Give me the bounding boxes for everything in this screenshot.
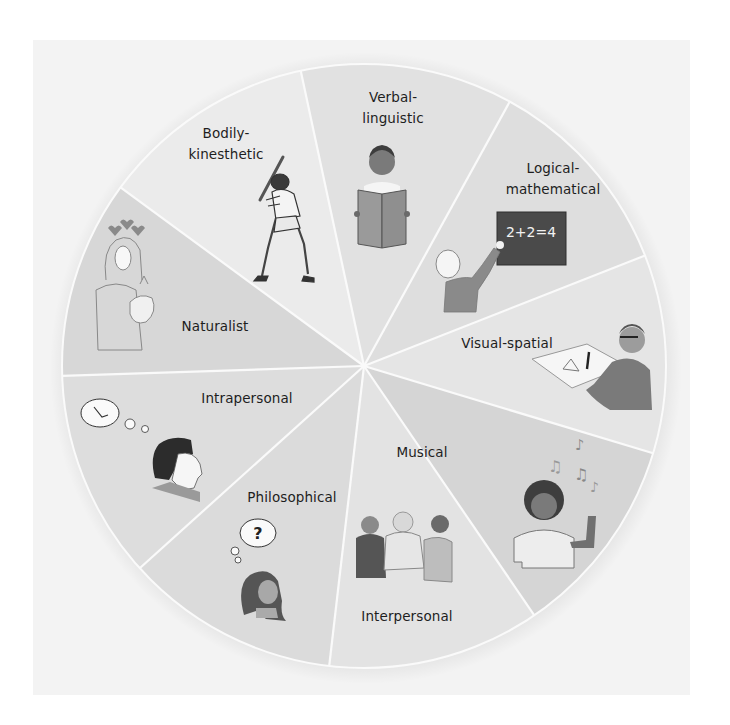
label-intrapersonal: Intrapersonal	[201, 388, 292, 409]
svg-text:♫: ♫	[548, 457, 562, 476]
label-line-2: linguistic	[362, 108, 423, 129]
label-naturalist: Naturalist	[182, 316, 249, 337]
label-bodily-kinesthetic: Bodily- kinesthetic	[188, 123, 263, 165]
label-visual-spatial: Visual-spatial	[461, 333, 553, 354]
question-mark: ?	[253, 524, 262, 543]
label-line-2: kinesthetic	[188, 144, 263, 165]
label-philosophical: Philosophical	[247, 487, 336, 508]
label-verbal-linguistic: Verbal- linguistic	[362, 87, 423, 129]
label-line-1: Verbal-	[362, 87, 423, 108]
svg-text:♪: ♪	[575, 436, 585, 454]
label-interpersonal: Interpersonal	[361, 606, 452, 627]
svg-text:♫: ♫	[574, 465, 588, 484]
label-line-1: Bodily-	[188, 123, 263, 144]
label-musical: Musical	[396, 442, 447, 463]
chalkboard-equation: 2+2=4	[506, 224, 556, 240]
label-line-2: mathematical	[506, 179, 601, 200]
label-line-1: Logical-	[506, 158, 601, 179]
svg-text:♪: ♪	[590, 479, 599, 495]
label-logical-mathematical: Logical- mathematical	[506, 158, 601, 200]
